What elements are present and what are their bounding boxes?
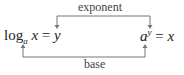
base-bracket [23,46,145,57]
exp-result: x [167,28,174,44]
log-equation: loga x = y [4,27,61,46]
equals-sign: = [42,27,50,43]
equals-sign: = [155,28,163,44]
exponential-equation: ay = x [140,27,174,45]
log-base-subscript: a [23,36,28,46]
log-result: y [54,27,61,43]
exp-base: a [140,28,148,44]
log-function: log [4,27,23,43]
base-label: base [84,57,105,72]
log-argument: x [31,27,38,43]
exponent-label: exponent [78,0,122,15]
exp-exponent: y [148,27,152,37]
exponent-bracket [57,16,150,27]
